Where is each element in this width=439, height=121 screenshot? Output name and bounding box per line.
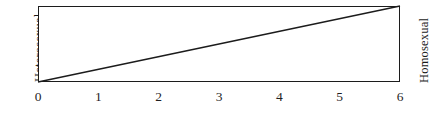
- diagonal-line: [38, 6, 400, 82]
- x-tick-label-2: 2: [146, 88, 172, 106]
- right-axis-label: Homosexual: [417, 18, 432, 83]
- x-tick-label-5: 5: [327, 88, 353, 106]
- kinsey-scale-figure: Heterosexual Homosexual 0123456: [0, 0, 439, 121]
- x-tick-label-1: 1: [85, 88, 111, 106]
- x-tick-label-3: 3: [206, 88, 232, 106]
- x-tick-label-0: 0: [25, 88, 51, 106]
- continuum-line: [38, 6, 400, 82]
- x-axis-tick-labels: 0123456: [38, 88, 400, 110]
- x-tick-label-4: 4: [266, 88, 292, 106]
- x-tick-label-6: 6: [387, 88, 413, 106]
